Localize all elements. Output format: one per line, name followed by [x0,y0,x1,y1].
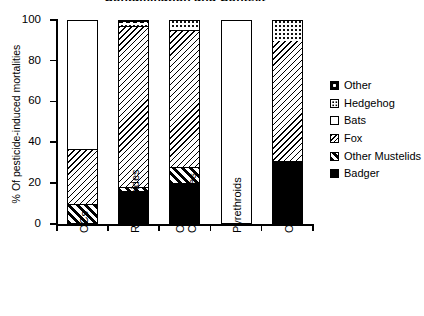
x-axis-label-others: Others [284,200,296,233]
segment-ops-carbamates-bats [170,27,199,31]
y-tick-60 [50,101,57,103]
legend-label-other: Other [344,80,372,91]
y-tick-80 [50,60,57,62]
segment-others-fox [273,41,302,161]
chart-root: Contamination and Context % Of pesticide… [0,0,424,316]
swatch-badger-icon [330,169,339,178]
x-axis-label-ops-carbamates: OPs & Carbamates [175,173,198,233]
x-axis-label-rodenticides: Rodenticides [130,169,142,233]
legend-item-fox[interactable]: Fox [330,130,421,148]
x-axis-label-ocs: OCs [79,211,91,233]
x-tick-5 [312,224,314,231]
x-tick-1 [107,224,109,231]
y-tick-label-80: 80 [28,55,41,67]
legend-label-bats: Bats [344,115,366,126]
x-tick-0 [56,224,58,231]
segment-ops-carbamates-fox [170,31,199,168]
y-axis-title: % Of pesticide-induced mortalities [10,24,22,224]
y-tick-label-100: 100 [22,14,41,26]
y-tick-label-60: 60 [28,96,41,108]
y-tick-label-40: 40 [28,136,41,148]
legend-item-other[interactable]: Other [330,77,421,95]
y-tick-40 [50,141,57,143]
bar-ocs[interactable] [67,20,98,224]
legend-label-badger: Badger [344,168,379,179]
plot-area: 0 20 40 60 80 100 [57,20,313,224]
legend-item-other-mustelids[interactable]: Other Mustelids [330,147,421,165]
swatch-other-mustelids-icon [330,152,339,161]
y-tick-20 [50,182,57,184]
y-tick-label-0: 0 [35,218,41,230]
swatch-other-icon [330,81,339,90]
legend-item-bats[interactable]: Bats [330,112,421,130]
segment-ops-carbamates-hedgehog [170,20,199,27]
x-axis-label-pyrethroids: Pyrethroids [232,177,244,233]
legend-label-hedgehog: Hedgehog [344,98,395,109]
y-axis-line [56,19,58,225]
swatch-bats-icon [330,116,339,125]
y-tick-label-20: 20 [28,177,41,189]
legend-label-fox: Fox [344,133,362,144]
segment-rodenticides-fox [119,27,148,188]
x-tick-2 [158,224,160,231]
x-tick-3 [210,224,212,231]
chart-title: Contamination and Context [70,0,300,1]
swatch-hedgehog-icon [330,99,339,108]
legend-item-badger[interactable]: Badger [330,165,421,183]
segment-others-hedgehog [273,20,302,41]
segment-rodenticides-other [119,20,148,23]
bar-others[interactable] [272,20,303,224]
legend-item-hedgehog[interactable]: Hedgehog [330,95,421,113]
segment-ocs-bats [68,20,97,150]
y-tick-100 [50,19,57,21]
segment-ocs-fox [68,150,97,205]
chart-legend: Other Hedgehog Bats Fox Other Mustelids … [330,77,421,183]
segment-rodenticides-hedgehog [119,23,148,27]
x-tick-4 [261,224,263,231]
legend-label-other-mustelids: Other Mustelids [344,151,421,162]
swatch-fox-icon [330,134,339,143]
